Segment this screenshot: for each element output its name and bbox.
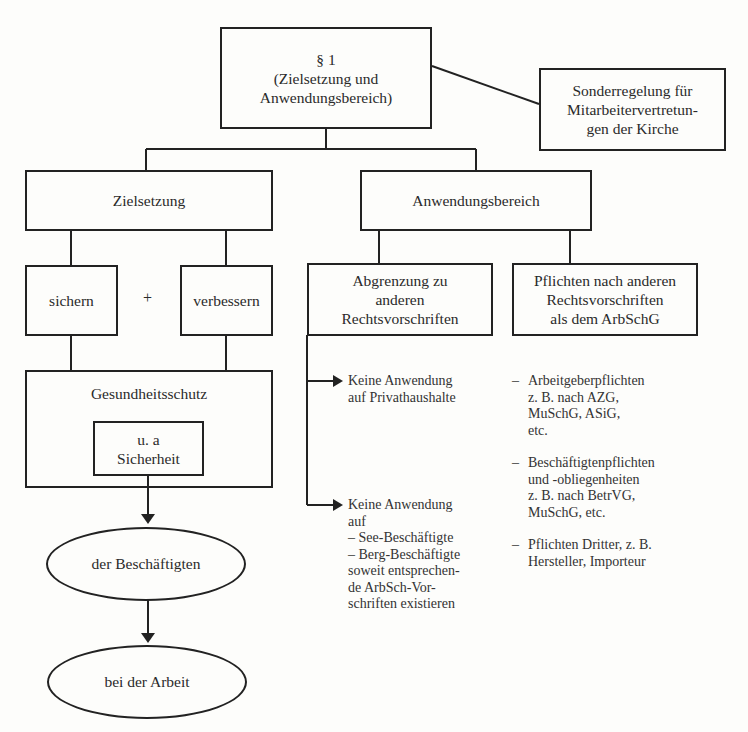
work-ellipse: bei der Arbeit — [47, 645, 247, 719]
duties-line3: als dem ArbSchG — [534, 309, 676, 328]
root-line1: § 1 — [260, 50, 393, 69]
exclusion2-line4: – Berg-Beschäftigte — [348, 547, 460, 564]
duties-list-item-employer: – Arbeitgeberpflichten z. B. nach AZG, M… — [512, 373, 655, 439]
duties-line1: Pflichten nach anderen — [534, 271, 676, 290]
exclusion2-line3: – See-Beschäftigte — [348, 530, 460, 547]
exclusion1-line2: auf Privathaushalte — [348, 390, 456, 407]
list-line: Pflichten Dritter, z. B. — [528, 537, 655, 554]
list-line: Arbeitgeberpflichten — [528, 373, 655, 390]
exclusion-sea-mining: Keine Anwendung auf – See-Beschäftigte –… — [348, 497, 460, 613]
other-duties-box: Pflichten nach anderen Rechtsvorschrifte… — [512, 263, 698, 336]
employees-ellipse: der Beschäftigten — [46, 527, 246, 601]
improve-label: verbessern — [193, 291, 259, 310]
safety-box: u. a Sicherheit — [93, 421, 204, 476]
root-line3: Anwendungsbereich) — [260, 88, 393, 107]
scope-box: Anwendungsbereich — [360, 170, 592, 231]
delimitation-line1: Abgrenzung zu — [341, 271, 458, 290]
list-line: Hersteller, Importeur — [528, 554, 655, 571]
list-line: MuSchG, etc. — [528, 505, 655, 522]
list-line: z. B. nach AZG, — [528, 390, 655, 407]
duties-line2: Rechtsvorschriften — [534, 290, 676, 309]
special-line2: Mitarbeitervertretun- — [567, 100, 698, 119]
exclusion1-line1: Keine Anwendung — [348, 373, 456, 390]
exclusion-private-households: Keine Anwendung auf Privathaushalte — [348, 373, 456, 406]
dash-bullet-icon: – — [512, 455, 519, 472]
arrow-exclusion1-icon — [333, 375, 343, 387]
secure-label: sichern — [49, 291, 94, 310]
employees-label: der Beschäftigten — [92, 555, 201, 573]
delimitation-line2: anderen — [341, 290, 458, 309]
list-line: z. B. nach BetrVG, — [528, 488, 655, 505]
exclusion2-line6: de ArbSch-Vor- — [348, 580, 460, 597]
safety-line1: u. a — [117, 430, 180, 449]
list-line: und -obliegenheiten — [528, 472, 655, 489]
special-line3: gen der Kirche — [567, 119, 698, 138]
delimitation-box: Abgrenzung zu anderen Rechtsvorschriften — [307, 263, 493, 336]
secure-box: sichern — [25, 265, 118, 336]
work-label: bei der Arbeit — [104, 673, 189, 691]
root-to-special-connector — [432, 66, 539, 104]
duties-list-item-third-party: – Pflichten Dritter, z. B. Hersteller, I… — [512, 537, 655, 570]
root-line2: (Zielsetzung und — [260, 69, 393, 88]
special-line1: Sonderregelung für — [567, 81, 698, 100]
special-regulation-box: Sonderregelung für Mitarbeitervertretun-… — [539, 68, 726, 151]
arrow-down-employees-icon — [141, 514, 155, 524]
list-line: Beschäftigtenpflichten — [528, 455, 655, 472]
arrow-exclusion2-icon — [333, 499, 343, 511]
goal-label: Zielsetzung — [113, 191, 185, 210]
plus-sign: + — [143, 289, 152, 307]
safety-line2: Sicherheit — [117, 449, 180, 468]
exclusion2-line2: auf — [348, 514, 460, 531]
list-line: MuSchG, ASiG, — [528, 406, 655, 423]
scope-label: Anwendungsbereich — [412, 191, 539, 210]
dash-bullet-icon: – — [512, 537, 519, 554]
root-box: § 1 (Zielsetzung und Anwendungsbereich) — [220, 27, 432, 129]
duties-list-item-employee: – Beschäftigtenpflichten und -obliegenhe… — [512, 455, 655, 521]
exclusion2-line5: soweit entsprechen- — [348, 563, 460, 580]
exclusion2-line7: schriften existieren — [348, 596, 460, 613]
arrow-down-work-icon — [141, 633, 155, 643]
goal-box: Zielsetzung — [25, 170, 273, 231]
delimitation-line3: Rechtsvorschriften — [341, 309, 458, 328]
health-label: Gesundheitsschutz — [91, 384, 207, 403]
exclusion2-line1: Keine Anwendung — [348, 497, 460, 514]
dash-bullet-icon: – — [512, 373, 519, 390]
list-line: etc. — [528, 423, 655, 440]
duties-list: – Arbeitgeberpflichten z. B. nach AZG, M… — [512, 373, 655, 570]
improve-box: verbessern — [180, 265, 273, 336]
